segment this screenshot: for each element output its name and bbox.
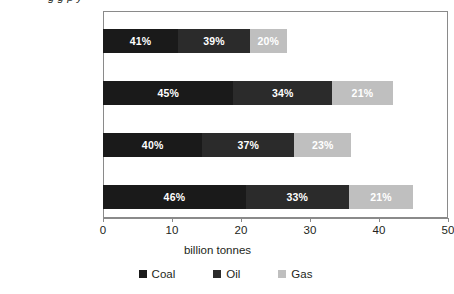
x-axis-tick xyxy=(379,218,380,222)
x-axis-tick-label: 30 xyxy=(304,224,317,236)
x-axis-line xyxy=(103,218,449,219)
x-axis-tick-label: 50 xyxy=(442,224,454,236)
legend-label: Gas xyxy=(291,268,312,280)
bar-segment-oil[interactable]: 39% xyxy=(178,29,250,53)
bar-segment-oil[interactable]: 34% xyxy=(233,81,332,105)
x-axis-tick-label: 0 xyxy=(100,224,106,236)
bar-segment-value-label: 37% xyxy=(237,139,259,151)
bar-segment-value-label: 45% xyxy=(157,87,179,99)
bar-segment-coal[interactable]: 40% xyxy=(103,133,202,157)
legend-label: Coal xyxy=(152,268,176,280)
bar-segment-value-label: 33% xyxy=(286,191,308,203)
bar-segment-coal[interactable]: 41% xyxy=(103,29,178,53)
bar-segment-value-label: 23% xyxy=(312,139,334,151)
stacked-bar[interactable]: 46%33%21% xyxy=(103,185,413,209)
bar-segment-value-label: 40% xyxy=(142,139,164,151)
bar-segment-value-label: 34% xyxy=(272,87,294,99)
bar-segment-gas[interactable]: 21% xyxy=(332,81,393,105)
x-axis-tick-label: 40 xyxy=(373,224,386,236)
x-axis-tick-label: 20 xyxy=(235,224,248,236)
x-axis-tick xyxy=(172,218,173,222)
bar-segment-value-label: 39% xyxy=(203,35,225,47)
bar-segment-oil[interactable]: 33% xyxy=(246,185,349,209)
bar-segment-value-label: 21% xyxy=(370,191,392,203)
bar-segment-value-label: 41% xyxy=(130,35,152,47)
x-axis-title: billion tonnes xyxy=(0,244,451,256)
legend-item-gas[interactable]: Gas xyxy=(278,268,312,280)
legend-label: Oil xyxy=(226,268,240,280)
stacked-bar[interactable]: 40%37%23% xyxy=(103,133,351,157)
stacked-bar[interactable]: 41%39%20% xyxy=(103,29,287,53)
bar-segment-coal[interactable]: 46% xyxy=(103,185,246,209)
bar-segment-value-label: 20% xyxy=(257,35,279,47)
bar-segment-gas[interactable]: 21% xyxy=(349,185,414,209)
bar-segment-gas[interactable]: 20% xyxy=(250,29,287,53)
chart-legend: CoalOilGas xyxy=(0,268,451,280)
x-axis-title-text: billion tonnes xyxy=(184,244,251,256)
bar-segment-value-label: 46% xyxy=(164,191,186,203)
cropped-title-text: g g p y xyxy=(0,0,451,3)
bar-segment-value-label: 21% xyxy=(352,87,374,99)
bar-segment-gas[interactable]: 23% xyxy=(294,133,351,157)
x-axis-tick-label: 10 xyxy=(166,224,179,236)
x-axis-tick xyxy=(241,218,242,222)
legend-item-oil[interactable]: Oil xyxy=(213,268,240,280)
legend-swatch-icon xyxy=(213,270,221,278)
stacked-bar[interactable]: 45%34%21% xyxy=(103,81,393,105)
x-axis-tick xyxy=(448,218,449,222)
x-axis-tick xyxy=(310,218,311,222)
bar-segment-oil[interactable]: 37% xyxy=(202,133,294,157)
cropped-title-remnant: g g p y xyxy=(0,0,451,5)
legend-item-coal[interactable]: Coal xyxy=(139,268,176,280)
legend-swatch-icon xyxy=(139,270,147,278)
x-axis-tick xyxy=(103,218,104,222)
bar-segment-coal[interactable]: 45% xyxy=(103,81,233,105)
legend-swatch-icon xyxy=(278,270,286,278)
